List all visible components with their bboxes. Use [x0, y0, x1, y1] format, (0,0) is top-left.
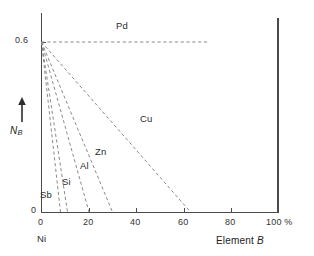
x-tick-label-40: 40	[130, 218, 140, 227]
origin-element-label: Ni	[37, 234, 46, 244]
x-axis-title: Element B	[216, 236, 264, 246]
x-tick-label-100: 100 %	[266, 218, 293, 227]
series-line-zn	[42, 42, 113, 212]
series-label-al: Al	[80, 161, 89, 171]
y-tick-label-0p6: 0.6	[15, 36, 28, 45]
series-line-sb	[42, 42, 61, 212]
x-axis-title-var: B	[257, 235, 264, 246]
x-tick-label-0: 0	[38, 218, 43, 227]
x-tick-label-60: 60	[178, 218, 188, 227]
y-axis-title: NB	[10, 126, 23, 137]
x-axis-ticks	[42, 208, 279, 213]
y-axis-title-sub: B	[17, 128, 22, 137]
series-label-si: Si	[62, 177, 71, 187]
x-tick-label-80: 80	[225, 218, 235, 227]
series-label-sb: Sb	[40, 190, 52, 200]
x-tick-label-20: 20	[83, 218, 93, 227]
y-axis-arrow	[18, 97, 26, 122]
chart-figure: 0.6 0 0 20 40 60 80 100 % Ni Element B N…	[0, 0, 314, 256]
series-label-pd: Pd	[116, 21, 128, 31]
series-label-zn: Zn	[95, 147, 107, 157]
y-tick-label-0: 0	[31, 206, 36, 215]
series-label-cu: Cu	[140, 114, 153, 124]
x-axis-title-word: Element	[216, 235, 254, 246]
